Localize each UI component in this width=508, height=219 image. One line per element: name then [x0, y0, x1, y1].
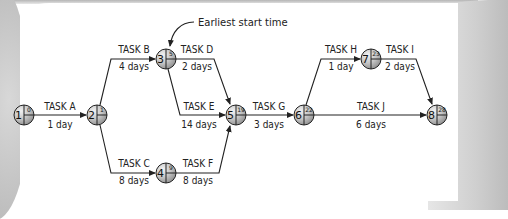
task-label-f: TASK F 8 days [182, 158, 214, 186]
task-label-h: TASK H 1 day [324, 44, 357, 72]
task-name: TASK D [180, 44, 213, 55]
node-id: 1 [15, 109, 22, 122]
node-id: 6 [295, 109, 302, 122]
node-id: 7 [362, 53, 369, 66]
task-name: TASK A [43, 101, 76, 112]
annotation-pointer [170, 22, 194, 46]
node-5: 5 19 [226, 105, 246, 125]
node-4: 4 9 [156, 163, 176, 183]
task-name: TASK H [324, 44, 357, 55]
task-duration: 8 days [119, 175, 149, 186]
task-label-d: TASK D 2 days [180, 44, 213, 72]
node-earliest-start: 22 [305, 106, 313, 113]
task-name: TASK G [252, 101, 285, 112]
task-duration: 14 days [181, 119, 217, 130]
task-duration: 1 day [328, 61, 354, 72]
node-8: 8 28 [427, 105, 447, 125]
task-name: TASK J [356, 101, 385, 112]
node-earliest-start: 5 [169, 50, 173, 57]
task-duration: 6 days [356, 119, 386, 130]
task-duration: 3 days [254, 119, 284, 130]
node-earliest-start: 28 [438, 106, 446, 113]
node-6: 6 22 [294, 105, 314, 125]
node-id: 4 [157, 167, 164, 180]
node-earliest-start: 19 [237, 106, 245, 113]
earliest-start-time-annotation: Earliest start time [198, 17, 288, 28]
node-earliest-start: 23 [372, 50, 380, 57]
node-3: 3 5 [156, 49, 176, 69]
task-duration: 8 days [183, 175, 213, 186]
task-duration: 2 days [182, 61, 212, 72]
node-1: 1 0 [14, 105, 34, 125]
task-duration: 1 day [47, 119, 73, 130]
node-id: 8 [428, 109, 435, 122]
task-label-b: TASK B 4 days [117, 44, 150, 72]
task-duration: 4 days [119, 61, 149, 72]
node-7: 7 23 [361, 49, 381, 69]
node-2: 2 1 [87, 105, 107, 125]
task-name: TASK B [117, 44, 150, 55]
task-name: TASK I [385, 44, 414, 55]
task-name: TASK E [182, 101, 214, 112]
node-id: 5 [227, 109, 234, 122]
task-label-c: TASK C 8 days [117, 158, 150, 186]
node-id: 3 [157, 53, 164, 66]
node-id: 2 [88, 109, 95, 122]
node-earliest-start: 1 [100, 106, 104, 113]
task-name: TASK F [182, 158, 214, 169]
task-name: TASK C [117, 158, 150, 169]
task-duration: 2 days [385, 61, 415, 72]
node-earliest-start: 0 [27, 106, 31, 113]
task-label-i: TASK I 2 days [385, 44, 415, 72]
node-earliest-start: 9 [169, 164, 173, 171]
